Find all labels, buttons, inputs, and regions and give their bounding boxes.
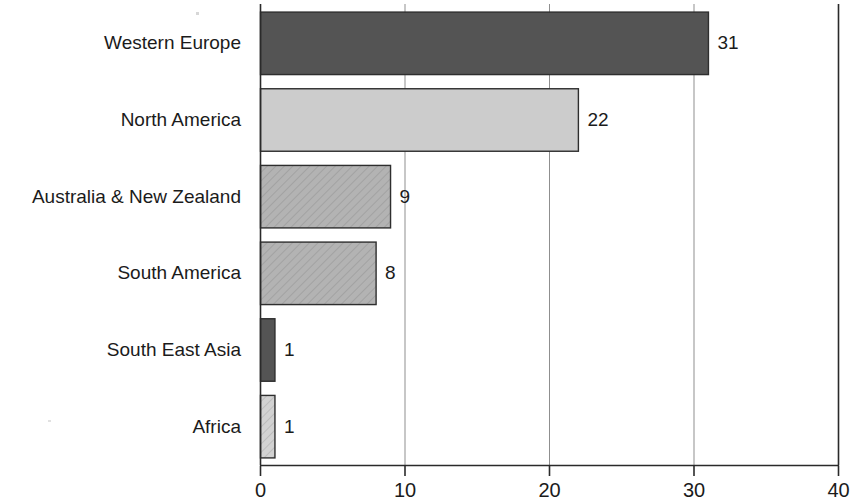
- value-label: 31: [717, 32, 738, 53]
- category-label: Western Europe: [104, 32, 241, 53]
- bar: [261, 242, 377, 304]
- category-label: North America: [121, 109, 242, 130]
- x-tick-label: 20: [538, 479, 560, 501]
- x-tick-label: 30: [683, 479, 705, 501]
- bar: [261, 395, 275, 457]
- category-label: Australia & New Zealand: [32, 186, 241, 207]
- bar: [261, 12, 709, 74]
- chart-background: [0, 0, 850, 502]
- chart-canvas: 010203040 Western EuropeNorth AmericaAus…: [0, 0, 850, 502]
- category-label: South America: [117, 262, 241, 283]
- bar: [261, 89, 579, 151]
- value-label: 1: [284, 339, 295, 360]
- x-tick-label: 10: [394, 479, 416, 501]
- category-label: Africa: [192, 416, 241, 437]
- category-label: South East Asia: [107, 339, 242, 360]
- x-tick-label: 40: [827, 479, 849, 501]
- bar-chart: 010203040 Western EuropeNorth AmericaAus…: [0, 0, 850, 502]
- value-label: 22: [587, 109, 608, 130]
- value-label: 8: [385, 262, 396, 283]
- value-label: 9: [400, 186, 411, 207]
- x-tick-label: 0: [255, 479, 266, 501]
- bar: [261, 319, 275, 381]
- bar: [261, 165, 391, 227]
- value-label: 1: [284, 416, 295, 437]
